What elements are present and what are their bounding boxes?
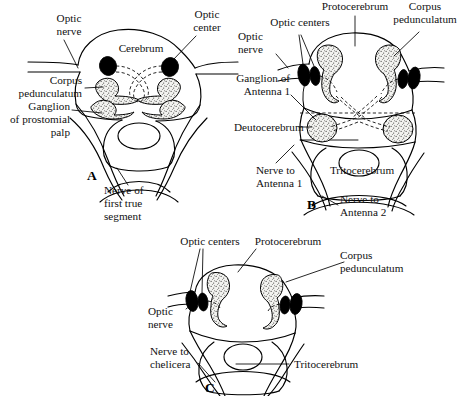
label-corpus-b-line1: Corpus [409,0,441,12]
figure-root: Optic nerve Cerebrum Optic center Corpus… [0,0,464,396]
label-nerve-first-line2: first true [104,197,142,209]
panel-letter-a: A [87,168,97,183]
label-protocerebrum-c: Protocerebrum [255,235,322,247]
label-corpus-b-line2: pedunculatum [393,13,457,25]
optic-nerve-right-upper [195,62,238,68]
panel-a: Optic nerve Cerebrum Optic center Corpus… [10,8,238,222]
optic-center-right-inner-b [397,69,409,89]
leader-optic-center-a [173,36,196,60]
suboesophageal-right [156,121,175,167]
oesophageal-foramen [118,123,160,149]
corpus-pedunculatum-right-c [260,274,282,329]
label-cerebrum: Cerebrum [119,42,164,54]
panel-b: Protocerebrum Corpus pedunculatum Optic … [234,0,457,218]
label-optic-nerve-c-line1: Optic [148,305,173,317]
tract-chiasma-2-b [341,97,366,119]
label-ganglion-antenna1-b-line1: Ganglion of [236,72,290,84]
label-ganglion-a-line1: Ganglion [28,100,70,112]
label-optic-centers-b: Optic centers [270,16,329,28]
label-tritocerebrum-b: Tritocerebrum [330,164,395,176]
optic-nerve-left-upper [28,62,78,65]
optic-center-left-inner-c [197,293,209,312]
leader-optic-centers-c-2 [202,249,203,293]
protocerebrum-ventral-c [190,331,295,342]
leader-nerve-antenna1-b [276,145,294,163]
right-lateral-wall [190,74,201,117]
ganglion-antenna1-left-b [307,114,337,142]
leader-corpus-b [394,32,419,56]
leader-optic-nerve-b [276,54,288,68]
suboesophageal-left [103,120,122,166]
panel-letter-c: C [205,380,215,395]
label-optic-center-a-line1: Optic [195,8,220,20]
panel-b-labels: Protocerebrum Corpus pedunculatum Optic … [234,0,457,218]
label-optic-center-a-line2: center [193,21,221,33]
label-ganglion-a-line3: palp [51,126,71,138]
label-nerve-first-line3: segment [104,210,142,222]
optic-center-left-inner-b [309,66,321,86]
connective-right-inner-c [268,344,304,396]
label-ganglion-antenna1-b-line2: Antenna 1 [244,85,290,97]
label-optic-centers-c: Optic centers [180,235,239,247]
optic-center-left-outer-b [297,63,312,86]
label-nerve-chelicera-c-line2: chelicera [150,358,190,370]
optic-center-left [98,55,119,77]
oesophageal-foramen-c [224,344,262,370]
label-corpus-a-line2: pedunculatum [19,87,83,99]
label-optic-nerve-a-line2: nerve [57,25,82,37]
leader-optic-centers-c-1 [190,249,200,292]
label-corpus-a-line1: Corpus [50,74,82,86]
tritocerebrum-left-b [311,148,326,196]
panel-letter-b: B [307,197,316,212]
corpus-pedunculatum-left-b [317,45,342,103]
label-corpus-c-line1: Corpus [340,249,372,261]
label-corpus-c-line2: pedunculatum [340,262,404,274]
label-nerve-chelicera-c-line1: Nerve to [150,345,189,357]
label-nerve-first-line1: Nerve of [104,184,144,196]
tract-chiasma-1-b [336,96,362,118]
label-deutocerebrum-b: Deutocerebrum [234,121,304,133]
panel-c: Optic centers Protocerebrum Corpus pedun… [148,235,404,396]
ganglion-antenna1-right-b [383,115,413,143]
label-optic-nerve-b-line1: Optic [238,30,263,42]
leader-protocerebrum-c [238,249,256,272]
label-nerve-antenna2-b-line2: Antenna 2 [340,206,386,218]
leader-corpus-c [286,262,344,282]
leader-ganglion-antenna1-b [291,95,316,120]
label-nerve-antenna1-b-line2: Antenna 1 [256,177,302,189]
label-optic-nerve-a-line1: Optic [57,12,82,24]
label-tritocerebrum-c: Tritocerebrum [294,358,359,370]
label-nerve-antenna2-b-line1: Nerve to [340,193,379,205]
optic-center-right-inner-c [279,296,291,315]
label-protocerebrum-b: Protocerebrum [322,0,389,12]
brain-diagram-svg: Optic nerve Cerebrum Optic center Corpus… [0,0,464,396]
tract-chiasma-4-b [352,96,377,118]
corpus-pedunculatum-left-c [207,272,229,327]
label-nerve-antenna1-b-line1: Nerve to [256,164,295,176]
optic-center-right [160,56,181,78]
label-optic-nerve-c-line2: nerve [148,318,173,330]
label-ganglion-a-line2: of prostomial [10,113,70,125]
tract-chiasma-3-b [356,97,382,119]
label-optic-nerve-b-line2: nerve [238,43,263,55]
